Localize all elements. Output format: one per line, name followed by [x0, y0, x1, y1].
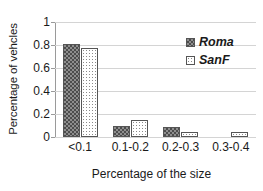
x-axis-tick-label: 0.3-0.4 [206, 141, 256, 154]
legend-entry-sanf[interactable]: SanF [186, 52, 256, 69]
legend-swatch-sanf-icon [186, 56, 195, 65]
bar-group [105, 22, 155, 137]
y-axis-tick-label: 1 [16, 16, 50, 28]
y-axis-tick-label: 0 [16, 131, 50, 143]
legend-label: SanF [199, 54, 230, 67]
legend-swatch-roma-icon [186, 38, 195, 47]
gridline [55, 137, 256, 138]
y-axis-tick-label: 0.2 [16, 108, 50, 120]
bar-chart: Percentage of vehcles 00.20.40.60.81 <0.… [0, 0, 263, 191]
bar-roma-0[interactable] [63, 44, 80, 137]
bar-sanf-2[interactable] [181, 132, 198, 137]
y-axis-tick-labels: 00.20.40.60.81 [16, 22, 50, 137]
chart-legend: RomaSanF [186, 34, 256, 70]
bar-sanf-1[interactable] [131, 120, 148, 137]
y-axis-tick-label: 0.4 [16, 85, 50, 97]
y-axis-tick-label: 0.6 [16, 62, 50, 74]
y-axis-tick-label: 0.8 [16, 39, 50, 51]
bar-sanf-3[interactable] [231, 132, 248, 137]
x-axis-tick-label: 0.1-0.2 [105, 141, 155, 154]
legend-entry-roma[interactable]: Roma [186, 34, 256, 51]
y-axis-tick [51, 137, 55, 138]
bar-roma-2[interactable] [163, 127, 180, 137]
x-axis-tick-labels: <0.10.1-0.20.2-0.30.3-0.4 [55, 141, 256, 159]
bar-roma-1[interactable] [113, 126, 130, 138]
x-axis-tick-label: 0.2-0.3 [156, 141, 206, 154]
bar-sanf-0[interactable] [81, 48, 98, 137]
legend-label: Roma [199, 36, 234, 49]
x-axis-title: Percentage of the size [40, 167, 263, 181]
bar-group [55, 22, 105, 137]
x-axis-tick-label: <0.1 [55, 141, 105, 154]
